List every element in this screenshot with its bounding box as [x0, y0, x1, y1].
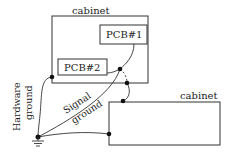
- junction-dot-icon: [50, 75, 55, 80]
- cabinet-bond-wire: [123, 83, 129, 101]
- hardware-ground-label-line2: ground: [23, 85, 34, 120]
- cabinet-1-label: cabinet: [72, 5, 110, 16]
- grounding-diagram: cabinet PCB#1 PCB#2 cabinet Hardware gro…: [0, 0, 233, 156]
- junction-dot-icon: [107, 132, 112, 137]
- cabinet-2-label: cabinet: [180, 90, 218, 101]
- hardware-ground-wire: [38, 77, 52, 137]
- junction-dot-icon: [121, 99, 126, 104]
- hardware-ground-label-line1: Hardware: [11, 82, 22, 131]
- junction-dot-icon: [118, 67, 123, 72]
- cabinet2-ground-wire: [38, 133, 109, 137]
- cabinet-2-box: [109, 102, 220, 145]
- junction-dot-icon: [125, 81, 130, 86]
- pcb1-signal-wire: [120, 44, 134, 69]
- dashed-link-wire: [120, 69, 127, 83]
- earth-ground-icon: [32, 137, 44, 146]
- pcb-1-label: PCB#1: [106, 29, 142, 40]
- pcb-2-label: PCB#2: [64, 62, 100, 73]
